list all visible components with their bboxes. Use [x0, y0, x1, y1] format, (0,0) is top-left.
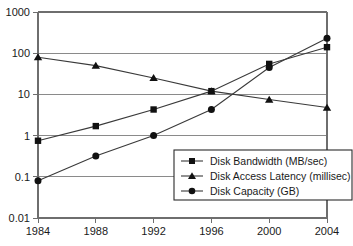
- data-point-s0-1988: [93, 123, 99, 129]
- data-point-s2-1992: [150, 132, 157, 139]
- y-axis-label-10: 10: [18, 88, 30, 100]
- chart-legend: Disk Bandwidth (MB/sec)Disk Access Laten…: [174, 150, 352, 200]
- y-axis-label-1: 1: [24, 130, 30, 142]
- x-axis-label-1996: 1996: [199, 225, 223, 237]
- data-point-s2-1984: [35, 177, 42, 184]
- legend-label-2: Disk Capacity (GB): [210, 185, 299, 197]
- x-axis-label-1988: 1988: [84, 225, 108, 237]
- data-point-s0-1984: [35, 138, 41, 144]
- legend-label-0: Disk Bandwidth (MB/sec): [210, 155, 327, 167]
- y-axis-label-0.1: 0.1: [15, 171, 30, 183]
- data-point-s2-1996: [208, 106, 215, 113]
- x-axis-label-2000: 2000: [257, 225, 281, 237]
- y-axis-tick-marks: [33, 12, 38, 218]
- legend-marker-circle-icon: [189, 188, 196, 195]
- x-axis-label-2004: 2004: [315, 225, 339, 237]
- x-axis-tick-labels: 198419881992199620002004: [26, 225, 339, 237]
- legend-label-1: Disk Access Latency (millisec): [210, 170, 351, 182]
- data-point-s1-1984: [34, 53, 42, 60]
- data-point-s0-2004: [324, 44, 330, 50]
- data-point-s2-1988: [92, 152, 99, 159]
- disk-trends-chart: 10001001010.10.01 1984198819921996200020…: [0, 0, 353, 246]
- x-axis-label-1992: 1992: [141, 225, 165, 237]
- y-axis-label-0.01: 0.01: [9, 212, 30, 224]
- data-point-s2-2004: [324, 35, 331, 42]
- y-axis-tick-labels: 10001001010.10.01: [6, 6, 30, 224]
- data-point-s0-1992: [150, 106, 156, 112]
- legend-marker-square-icon: [189, 158, 195, 164]
- data-point-s2-2000: [266, 64, 273, 71]
- y-axis-label-100: 100: [12, 47, 30, 59]
- x-axis-tick-marks: [38, 218, 327, 223]
- y-axis-label-1000: 1000: [6, 6, 30, 18]
- chart-canvas: 10001001010.10.01 1984198819921996200020…: [0, 0, 353, 246]
- x-axis-label-1984: 1984: [26, 225, 50, 237]
